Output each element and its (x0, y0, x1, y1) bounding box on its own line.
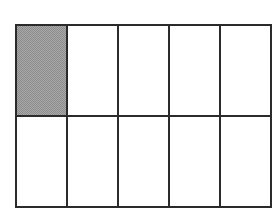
grid-cell (68, 26, 119, 117)
figure-canvas (0, 0, 280, 211)
grid-cell (170, 117, 221, 208)
rectangle-grid (15, 24, 272, 208)
grid-cell (17, 117, 68, 208)
grid-cell (221, 26, 272, 117)
grid-cell (221, 117, 272, 208)
grid-cell (119, 117, 170, 208)
grid-cell-shaded (17, 26, 68, 117)
grid-cell (119, 26, 170, 117)
grid-cell (68, 117, 119, 208)
grid-cell (170, 26, 221, 117)
